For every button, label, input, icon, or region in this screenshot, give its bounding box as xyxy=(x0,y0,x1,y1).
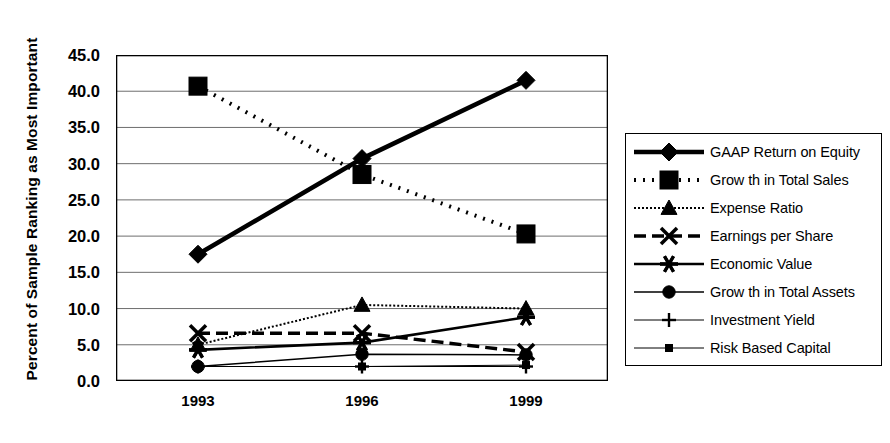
legend-key-small-square-icon xyxy=(632,338,706,358)
series-canvas xyxy=(116,55,608,381)
legend-key-asterisk-icon xyxy=(632,254,706,274)
y-axis-tick-labels: 0.05.010.015.020.025.030.035.040.045.0 xyxy=(38,0,100,443)
chart-figure: Percent of Sample Ranking as Most Import… xyxy=(0,0,890,443)
legend-item[interactable]: Grow th in Total Sales xyxy=(626,166,881,194)
legend-label: Grow th in Total Sales xyxy=(706,172,849,188)
series-investment-yield xyxy=(191,360,533,374)
y-axis-tick: 45.0 xyxy=(40,46,100,65)
x-axis-tick: 1996 xyxy=(345,392,378,409)
legend-item[interactable]: Risk Based Capital xyxy=(626,334,881,362)
y-axis-tick: 30.0 xyxy=(40,154,100,173)
legend-label: Grow th in Total Assets xyxy=(706,284,855,300)
data-point-circle xyxy=(663,286,675,298)
legend-key-x-icon xyxy=(632,226,706,246)
y-axis-tick: 0.0 xyxy=(40,372,100,391)
y-axis-tick: 25.0 xyxy=(40,190,100,209)
series-gaap-return-on-equity xyxy=(189,71,535,263)
legend-item[interactable]: Earnings per Share xyxy=(626,222,881,250)
legend-item[interactable]: GAAP Return on Equity xyxy=(626,138,881,166)
legend-key-triangle-icon xyxy=(632,198,706,218)
data-point-triangle xyxy=(354,297,370,311)
y-axis-tick: 35.0 xyxy=(40,118,100,137)
data-point-square xyxy=(660,171,678,189)
y-axis-tick: 20.0 xyxy=(40,227,100,246)
legend-key-square-icon xyxy=(632,170,706,190)
legend-item[interactable]: Grow th in Total Assets xyxy=(626,278,881,306)
x-axis-tick: 1993 xyxy=(181,392,214,409)
legend-label: GAAP Return on Equity xyxy=(706,144,860,160)
data-point-diamond xyxy=(517,71,535,89)
data-point-triangle xyxy=(518,301,534,315)
data-point-small-square xyxy=(666,345,673,352)
legend-item[interactable]: Economic Value xyxy=(626,250,881,278)
legend-label: Risk Based Capital xyxy=(706,340,831,356)
y-axis-tick: 10.0 xyxy=(40,299,100,318)
plot-area xyxy=(116,55,608,381)
data-point-diamond xyxy=(660,143,678,161)
legend-label: Expense Ratio xyxy=(706,200,803,216)
y-axis-tick: 40.0 xyxy=(40,82,100,101)
chart-legend: GAAP Return on EquityGrow th in Total Sa… xyxy=(625,133,882,366)
legend-item[interactable]: Investment Yield xyxy=(626,306,881,334)
legend-key-plus-icon xyxy=(632,310,706,330)
legend-key-diamond-icon xyxy=(632,142,706,162)
y-axis-tick: 15.0 xyxy=(40,263,100,282)
x-axis-tick: 1999 xyxy=(509,392,542,409)
legend-label: Investment Yield xyxy=(706,312,815,328)
data-point-circle xyxy=(192,360,204,372)
legend-label: Earnings per Share xyxy=(706,228,833,244)
data-point-square xyxy=(189,77,207,95)
legend-item[interactable]: Expense Ratio xyxy=(626,194,881,222)
legend-key-circle-icon xyxy=(632,282,706,302)
y-axis-tick: 5.0 xyxy=(40,335,100,354)
data-point-square xyxy=(517,225,535,243)
legend-label: Economic Value xyxy=(706,256,812,272)
